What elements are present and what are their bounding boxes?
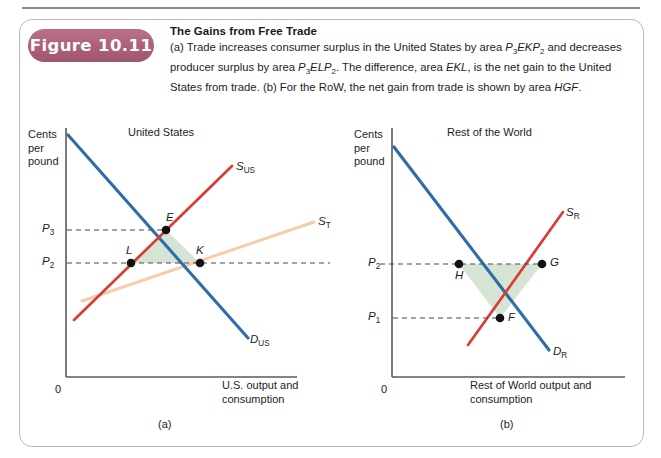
panel-b-label: (b) [500, 418, 513, 430]
point-label-f: F [508, 311, 515, 323]
curve-label-sr: SR [566, 206, 580, 221]
point-label-k: K [196, 244, 204, 256]
panel-a-x-axis-label: U.S. output and consumption [222, 379, 298, 406]
point-label-h: H [455, 269, 463, 281]
point-label-g: G [550, 256, 559, 268]
figure-caption-title: The Gains from Free Trade [170, 25, 625, 37]
panel-a-y-axis-label: Cents per pound [28, 128, 59, 169]
panel-b-price-tick-p2: P2 [368, 256, 380, 271]
figure-caption-block: The Gains from Free Trade (a) Trade incr… [170, 25, 625, 95]
panel-b-y-axis-label: Cents per pound [354, 128, 385, 169]
page-top-rule [22, 7, 640, 9]
figure-caption-text: (a) Trade increases consumer surplus in … [170, 40, 625, 95]
curve-label-dus: DUS [250, 333, 270, 348]
panel-b-price-tick-p1: P1 [368, 310, 380, 325]
curve-label-sus: SUS [236, 160, 255, 175]
panel-b-x-axis-label: Rest of World output and consumption [470, 379, 591, 406]
figure-page: Figure 10.11 The Gains from Free Trade (… [0, 0, 661, 458]
figure-number-label: Figure 10.11 [30, 36, 153, 55]
panel-a-label: (a) [158, 418, 171, 430]
figure-number-badge: Figure 10.11 [28, 29, 154, 62]
panel-a-price-tick-p3: P3 [42, 222, 54, 237]
point-label-l: L [126, 244, 132, 256]
curve-label-dr: DR [553, 345, 567, 360]
panel-a-origin-label: 0 [55, 383, 61, 395]
point-label-e: E [166, 211, 174, 223]
panel-a-chart-title: United States [128, 126, 194, 138]
panel-b-chart-title: Rest of the World [447, 126, 532, 138]
panel-b-origin-label: 0 [381, 383, 387, 395]
curve-label-st: ST [318, 215, 331, 230]
panel-a-price-tick-p2: P2 [42, 255, 54, 270]
